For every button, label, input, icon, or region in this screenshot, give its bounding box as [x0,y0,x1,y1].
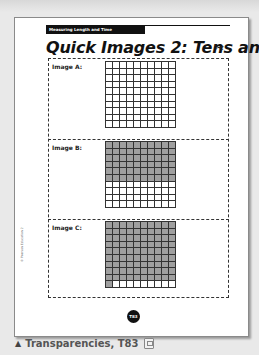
grid-cell [148,281,155,288]
grid-cell [120,262,127,269]
grid-cell [120,235,127,242]
grid-cell [127,82,134,89]
grid-cell [162,162,169,169]
grid-cell [162,262,169,269]
grid-cell [113,115,120,122]
grid-cell [113,175,120,182]
grid-cell [155,195,162,202]
grid-cell [155,168,162,175]
grid-cell [155,281,162,288]
grid-cell [162,229,169,236]
grid-cell [134,262,141,269]
grid-cell [169,142,176,149]
grid-cell [155,75,162,82]
grid-cell [148,162,155,169]
grid-cell [141,201,148,208]
grid-cell [141,182,148,189]
grid-cell [106,201,113,208]
grid-cell [169,102,176,109]
grid-cell [169,248,176,255]
grid-cell [127,162,134,169]
grid-cell [127,201,134,208]
grid-cell [134,162,141,169]
grid-cell [162,235,169,242]
grid-cell [162,248,169,255]
grid-cell [134,235,141,242]
grid-cell [169,268,176,275]
grid-cell [141,62,148,69]
image-b-label: Image B: [52,144,82,151]
grid-cell [120,155,127,162]
grid-cell [148,195,155,202]
grid-cell [169,121,176,128]
cut-line-divider [48,219,229,220]
grid-cell [120,108,127,115]
grid-cell [120,162,127,169]
grid-cell [141,262,148,269]
grid-cell [162,268,169,275]
grid-cell [113,121,120,128]
grid-cell [127,88,134,95]
grid-cell [134,248,141,255]
grid-cell [148,88,155,95]
grid-cell [113,102,120,109]
grid-cell [120,281,127,288]
grid-cell [169,235,176,242]
grid-cell [134,229,141,236]
grid-cell [106,242,113,249]
grid-cell [134,75,141,82]
grid-cell [127,175,134,182]
grid-cell [148,182,155,189]
grid-cell [169,69,176,76]
grid-cell [127,168,134,175]
grid-cell [120,242,127,249]
grid-cell [106,75,113,82]
image-a-label: Image A: [52,63,82,70]
grid-cell [141,255,148,262]
image-c-grid [105,221,176,288]
image-b-grid [105,141,176,208]
grid-cell [106,229,113,236]
grid-cell [148,155,155,162]
grid-cell [113,108,120,115]
grid-cell [169,182,176,189]
grid-cell [106,149,113,156]
grid-cell [155,235,162,242]
grid-cell [113,262,120,269]
grid-cell [169,175,176,182]
grid-cell [141,222,148,229]
grid-cell [120,275,127,282]
grid-cell [148,115,155,122]
grid-cell [106,102,113,109]
grid-cell [169,255,176,262]
grid-cell [113,88,120,95]
grid-cell [113,69,120,76]
grid-cell [113,275,120,282]
grid-cell [155,82,162,89]
figure-caption: ▲ Transparencies, T83 [15,338,154,349]
grid-cell [127,62,134,69]
grid-cell [120,248,127,255]
grid-cell [162,201,169,208]
grid-cell [127,95,134,102]
grid-cell [113,62,120,69]
grid-cell [127,155,134,162]
grid-cell [162,222,169,229]
grid-cell [141,268,148,275]
grid-cell [141,88,148,95]
grid-cell [106,182,113,189]
grid-cell [120,88,127,95]
grid-cell [134,275,141,282]
grid-cell [155,102,162,109]
grid-cell [106,82,113,89]
grid-cell [106,262,113,269]
grid-cell [155,255,162,262]
grid-cell [134,88,141,95]
grid-cell [162,115,169,122]
grid-cell [155,95,162,102]
grid-cell [127,142,134,149]
grid-cell [127,248,134,255]
grid-cell [134,195,141,202]
cd-resource-icon[interactable] [144,338,154,349]
grid-cell [106,188,113,195]
